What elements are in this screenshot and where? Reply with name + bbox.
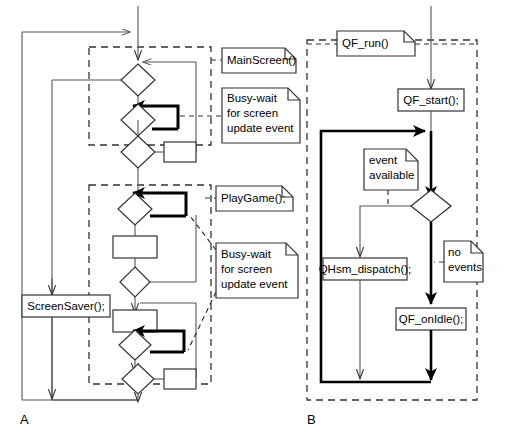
panel-b: QF_start(); QF_onIdle(); QHsm_dispatch()… xyxy=(307,6,483,427)
note-busywait-1: Busy-wait for screen update event xyxy=(222,88,300,143)
decision-event xyxy=(411,190,451,222)
panel-a-label: A xyxy=(20,412,29,427)
action-qfonidle-label: QF_onIdle(); xyxy=(399,313,464,325)
action-play-2 xyxy=(113,310,157,332)
note-busywait-2: Busy-wait for screen update event xyxy=(216,243,298,298)
note-mainscreen: MainScreen() xyxy=(222,48,296,73)
note-no-events-line-1: events xyxy=(448,261,482,273)
note-mainscreen-line-0: MainScreen() xyxy=(227,54,296,66)
action-main-small xyxy=(164,142,196,162)
qf-thin-branch xyxy=(360,206,411,256)
note-playgame-line-0: PlayGame(); xyxy=(221,192,286,204)
decision-play-2 xyxy=(120,267,150,297)
decision-play-4 xyxy=(122,364,154,394)
panel-b-label: B xyxy=(307,412,316,427)
decision-main-1 xyxy=(121,64,155,96)
action-screensaver-label: ScreenSaver(); xyxy=(27,300,104,312)
note-busywait-1-line-1: for screen xyxy=(227,107,278,119)
action-play-small xyxy=(164,369,196,389)
note-no-events-line-0: no xyxy=(448,246,461,258)
panel-a: ScreenSaver(); MainScreen() Busy-wait fo… xyxy=(20,6,300,427)
action-qhsmdispatch-label: QHsm_dispatch(); xyxy=(319,263,412,275)
note-busywait-2-line-1: for screen xyxy=(221,263,272,275)
note-no-events: no events xyxy=(444,241,483,282)
connector-busywait-2a xyxy=(190,216,216,250)
decision-play-1 xyxy=(118,193,152,225)
note-event-available: event available xyxy=(364,149,418,190)
note-busywait-1-line-2: update event xyxy=(227,122,294,134)
note-event-available-line-0: event xyxy=(369,154,398,166)
note-qfrun-line-0: QF_run() xyxy=(342,37,389,49)
note-qfrun: QF_run() xyxy=(337,31,415,56)
note-event-available-line-1: available xyxy=(369,169,414,181)
action-play-1 xyxy=(113,236,157,258)
decision-main-3 xyxy=(121,136,155,168)
note-busywait-2-line-2: update event xyxy=(221,278,288,290)
note-playgame: PlayGame(); xyxy=(216,186,293,211)
note-busywait-2-line-0: Busy-wait xyxy=(221,248,272,260)
note-busywait-1-line-0: Busy-wait xyxy=(227,92,278,104)
figure-canvas: ScreenSaver(); MainScreen() Busy-wait fo… xyxy=(0,0,508,440)
flowchart-diagram: ScreenSaver(); MainScreen() Busy-wait fo… xyxy=(0,0,508,440)
connector-busywait-2b xyxy=(188,292,216,350)
action-qfstart-label: QF_start(); xyxy=(403,94,459,106)
decision-play-3 xyxy=(119,330,151,360)
